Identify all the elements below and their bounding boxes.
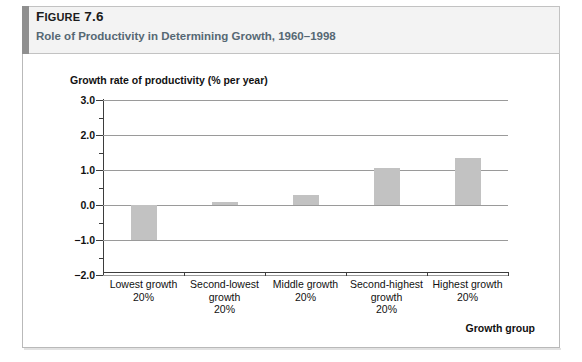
y-tick-minor	[99, 258, 103, 259]
y-tick-label: −1.0	[63, 235, 95, 245]
x-category-line: 20%	[421, 291, 514, 304]
y-tick-label: −2.0	[63, 270, 95, 280]
x-category-line: Lowest growth	[97, 278, 190, 291]
bar	[374, 168, 400, 205]
x-category-label: Second-lowestgrowth20%	[178, 278, 271, 316]
x-category-line: growth	[340, 291, 433, 304]
y-tick-minor	[99, 223, 103, 224]
x-axis-title: Growth group	[466, 322, 535, 334]
y-tick-minor	[99, 153, 103, 154]
x-category-line: 20%	[97, 291, 190, 304]
figure-title: Role of Productivity in Determining Grow…	[36, 28, 516, 44]
figure-number-rest: IGURE	[44, 11, 80, 23]
bar	[293, 195, 319, 206]
gridline-0.0	[103, 205, 508, 206]
figure-number-value: 7.6	[80, 9, 103, 24]
y-tick-minor	[99, 188, 103, 189]
x-category-line: Highest growth	[421, 278, 514, 291]
y-axis-line	[103, 99, 104, 275]
x-tick	[346, 272, 347, 276]
x-category-label: Middle growth20%	[259, 278, 352, 303]
x-category-line: 20%	[259, 291, 352, 304]
x-category-line: Second-highest	[340, 278, 433, 291]
x-category-line: 20%	[178, 303, 271, 316]
gridline-3.0	[103, 100, 508, 101]
chart-area: Growth rate of productivity (% per year)…	[22, 54, 560, 348]
y-tick-major	[96, 275, 103, 276]
gridline-neg2.0	[103, 275, 508, 276]
gridline-2.0	[103, 135, 508, 136]
x-category-line: Second-lowest	[178, 278, 271, 291]
x-category-label: Lowest growth20%	[97, 278, 190, 303]
x-tick	[427, 272, 428, 276]
gridline-1.0	[103, 170, 508, 171]
y-tick-minor	[99, 118, 103, 119]
figure-header-text: FIGURE 7.6 Role of Productivity in Deter…	[36, 9, 516, 44]
x-axis-category-labels: Lowest growth20%Second-lowestgrowth20%Mi…	[103, 278, 523, 338]
x-category-label: Highest growth20%	[421, 278, 514, 303]
y-tick-major	[96, 170, 103, 171]
gridline-neg1.0	[103, 240, 508, 241]
y-tick-major	[96, 240, 103, 241]
bar	[212, 202, 238, 206]
figure-number: FIGURE 7.6	[36, 9, 516, 25]
y-tick-major	[96, 100, 103, 101]
bar	[455, 158, 481, 205]
y-tick-label: 2.0	[63, 130, 95, 140]
y-tick-label: 0.0	[63, 200, 95, 210]
bar	[131, 205, 157, 240]
x-tick	[508, 272, 509, 276]
x-tick	[184, 272, 185, 276]
y-tick-major	[96, 135, 103, 136]
header-accent-bar	[22, 6, 29, 54]
x-tick	[265, 272, 266, 276]
x-category-line: 20%	[340, 303, 433, 316]
x-category-line: growth	[178, 291, 271, 304]
y-axis-title: Growth rate of productivity (% per year)	[70, 74, 268, 86]
y-tick-major	[96, 205, 103, 206]
y-tick-label: 1.0	[63, 165, 95, 175]
x-axis-line	[103, 272, 508, 273]
x-category-label: Second-highestgrowth20%	[340, 278, 433, 316]
y-axis-tick-labels: 3.02.01.00.0−1.0−2.0	[55, 100, 95, 275]
y-tick-label: 3.0	[63, 95, 95, 105]
plot-region	[103, 100, 508, 275]
figure-container: FIGURE 7.6 Role of Productivity in Deter…	[0, 0, 582, 362]
x-category-line: Middle growth	[259, 278, 352, 291]
